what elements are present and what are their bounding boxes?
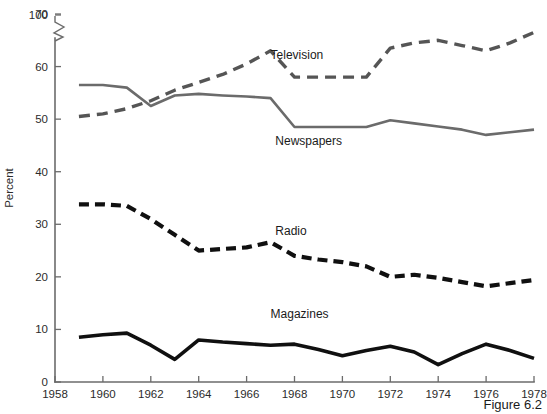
y-tick-label-10: 10 (35, 323, 48, 335)
x-tick-label-1958: 1958 (42, 388, 68, 400)
figure-container: 0102030405060701001958196019621964196619… (0, 0, 547, 414)
figure-caption: Figure 6.2 (483, 397, 542, 412)
x-tick-label-1970: 1970 (330, 388, 356, 400)
y-tick-label-0: 0 (42, 376, 48, 388)
x-tick-label-1962: 1962 (138, 388, 164, 400)
y-tick-label-30: 30 (35, 218, 48, 230)
series-line-radio (79, 204, 534, 286)
x-tick-label-1960: 1960 (90, 388, 116, 400)
y-tick-label-50: 50 (35, 113, 48, 125)
y-tick-label-40: 40 (35, 166, 48, 178)
series-label-magazines: Magazines (271, 307, 329, 321)
y-tick-label-20: 20 (35, 271, 48, 283)
series-labels-layer: TelevisionNewspapersRadioMagazines (271, 48, 342, 321)
x-tick-label-1968: 1968 (282, 388, 308, 400)
series-label-television: Television (271, 48, 324, 62)
series-label-newspapers: Newspapers (275, 134, 342, 148)
series-label-radio: Radio (275, 224, 307, 238)
x-tick-label-1974: 1974 (425, 388, 451, 400)
y-tick-label-60: 60 (35, 61, 48, 73)
x-tick-label-1972: 1972 (378, 388, 404, 400)
series-line-newspapers (79, 85, 534, 135)
x-tick-label-1966: 1966 (234, 388, 260, 400)
line-chart: 0102030405060701001958196019621964196619… (0, 0, 547, 414)
series-line-magazines (79, 333, 534, 365)
y-axis-title: Percent (3, 167, 15, 207)
x-tick-label-1964: 1964 (186, 388, 212, 400)
y-tick-label-100: 100 (29, 9, 48, 21)
